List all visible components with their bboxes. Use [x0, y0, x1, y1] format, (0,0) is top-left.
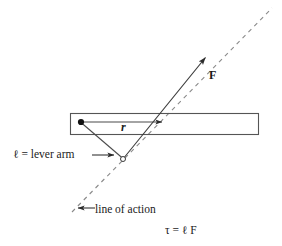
- line-of-action-line: [72, 8, 272, 212]
- rigid-bar: [71, 114, 259, 135]
- torque-equation-label: τ = ℓ F: [165, 224, 197, 236]
- perpendicular-foot-circle: [121, 157, 126, 162]
- lever-arm-line: [81, 123, 123, 159]
- torque-diagram: F r ℓ = lever arm line of action τ = ℓ F: [0, 0, 282, 246]
- lever-arm-label: ℓ = lever arm: [13, 148, 74, 160]
- line-of-action-label: line of action: [95, 203, 156, 215]
- pivot-point-dot: [78, 119, 84, 125]
- force-label: F: [209, 68, 216, 83]
- force-vector-arrow: [123, 58, 206, 160]
- radius-label: r: [121, 120, 126, 135]
